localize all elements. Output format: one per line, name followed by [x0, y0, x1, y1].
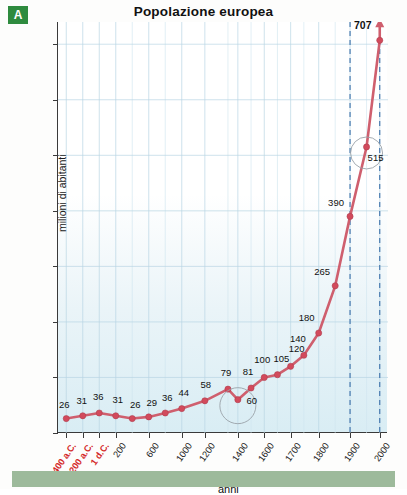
- data-point: [316, 330, 322, 336]
- x-axis-tick: [66, 433, 67, 438]
- data-point-label: 140: [290, 333, 306, 344]
- y-axis-tick: [53, 322, 58, 323]
- y-axis-tick: [53, 44, 58, 45]
- x-axis-tick: [182, 433, 183, 438]
- x-axis-label: 1200: [197, 441, 217, 463]
- data-point-label: 79: [221, 367, 232, 378]
- y-axis-tick: [53, 155, 58, 156]
- data-point-label: 707: [354, 19, 372, 31]
- plot-area: 2631363126293644587960811001051201401802…: [57, 22, 387, 433]
- data-point-label: 105: [274, 353, 290, 364]
- x-axis-label: 1400: [230, 441, 250, 463]
- x-axis-label: 1900: [342, 441, 362, 463]
- footer-band: [12, 471, 395, 487]
- x-axis-label: 200: [111, 441, 128, 459]
- data-point-label: 44: [178, 387, 189, 398]
- x-axis-label: 1000: [174, 441, 194, 463]
- x-axis-tick: [264, 433, 265, 438]
- y-axis-tick: [53, 377, 58, 378]
- series-line: [66, 40, 380, 418]
- x-axis-label: 1700: [283, 441, 303, 463]
- data-point-label: 36: [93, 391, 104, 402]
- data-point: [332, 283, 338, 289]
- data-point: [274, 372, 280, 378]
- data-point: [80, 413, 86, 419]
- data-point-label: 265: [314, 266, 330, 277]
- data-point-label: 100: [254, 354, 270, 365]
- x-axis-tick: [205, 433, 206, 438]
- x-axis-label: 1800: [311, 441, 331, 463]
- x-axis-tick: [83, 433, 84, 438]
- data-point: [146, 414, 152, 420]
- data-point-label: 515: [368, 152, 384, 163]
- data-point: [261, 374, 267, 380]
- plot-inner: 2631363126293644587960811001051201401802…: [58, 22, 387, 432]
- data-point: [248, 385, 254, 391]
- data-point: [377, 37, 383, 43]
- data-point-label: 60: [247, 395, 258, 406]
- y-axis-tick: [53, 211, 58, 212]
- x-axis-tick: [380, 433, 381, 438]
- data-point: [347, 213, 353, 219]
- data-point: [162, 410, 168, 416]
- x-axis-label: 600: [144, 441, 161, 459]
- data-point-label: 58: [201, 379, 212, 390]
- data-point-label: 36: [162, 392, 173, 403]
- x-axis-tick: [238, 433, 239, 438]
- data-point-label: 81: [243, 366, 254, 377]
- data-point: [129, 415, 135, 421]
- data-point: [288, 363, 294, 369]
- data-point: [113, 413, 119, 419]
- data-point-label: 31: [112, 394, 123, 405]
- y-axis-tick: [53, 433, 58, 434]
- data-point-label: 29: [146, 397, 157, 408]
- chart-title: Popolazione europea: [0, 4, 407, 19]
- data-point-label: 180: [299, 312, 315, 323]
- data-point-label: 390: [328, 197, 344, 208]
- x-axis-tick: [116, 433, 117, 438]
- x-axis-tick: [350, 433, 351, 438]
- data-point: [235, 397, 241, 403]
- data-point: [363, 144, 369, 150]
- data-point: [202, 398, 208, 404]
- data-point-label: 120: [289, 343, 305, 354]
- y-axis-tick: [53, 266, 58, 267]
- y-axis-tick: [53, 100, 58, 101]
- data-point: [179, 405, 185, 411]
- x-axis-tick: [319, 433, 320, 438]
- data-point-label: 26: [59, 399, 70, 410]
- x-axis-label: 1600: [257, 441, 277, 463]
- data-point-label: 31: [76, 395, 87, 406]
- x-axis-tick: [149, 433, 150, 438]
- x-axis-tick: [99, 433, 100, 438]
- x-axis-tick: [291, 433, 292, 438]
- x-axis-label: 2000: [372, 441, 392, 463]
- y-axis-title: milioni di abitanti: [56, 154, 68, 232]
- data-point: [96, 410, 102, 416]
- data-point-label: 26: [130, 399, 141, 410]
- data-point: [63, 415, 69, 421]
